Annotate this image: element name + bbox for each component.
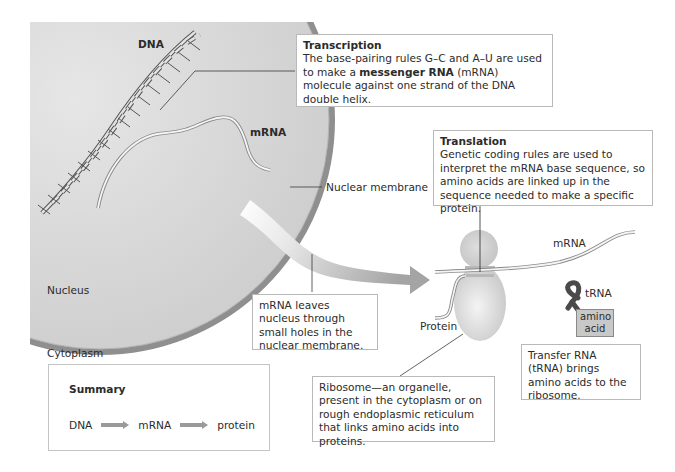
diagram-stage: DNA mRNA Nuclear membrane Nucleus Cytopl… <box>0 0 675 472</box>
summary-step-mrna: mRNA <box>138 419 171 431</box>
summary-flow: DNA mRNA protein <box>69 419 255 431</box>
summary-step-dna: DNA <box>69 419 92 431</box>
summary-box: Summary DNA mRNA protein <box>48 364 270 451</box>
dna-label: DNA <box>138 38 164 51</box>
arrow-right-icon <box>101 421 129 429</box>
ribosome-box: Ribosome—an organelle, present in the cy… <box>312 376 495 442</box>
cytoplasm-label: Cytoplasm <box>47 347 103 360</box>
ribosome-text: Ribosome—an organelle, present in the cy… <box>319 381 482 447</box>
transcription-box: Transcription The base-pairing rules G–C… <box>296 34 553 107</box>
amino-acid-line1: amino <box>580 311 611 322</box>
translation-box: Translation Genetic coding rules are use… <box>433 130 653 206</box>
trna-molecule <box>568 283 579 310</box>
nuclear-membrane-label: Nuclear membrane <box>326 181 428 194</box>
mrna-leaves-box: mRNA leaves nucleus through small holes … <box>252 294 378 350</box>
protein-label: Protein <box>420 320 457 333</box>
mrna-leaves-text: mRNA leaves nucleus through small holes … <box>259 299 363 351</box>
amino-acid-line2: acid <box>585 323 606 334</box>
translation-title: Translation <box>440 135 646 148</box>
translation-text: Genetic coding rules are used to interpr… <box>440 148 645 214</box>
mrna-nucleus-label: mRNA <box>250 126 286 139</box>
transcription-title: Transcription <box>303 39 546 52</box>
trna-box-text: Transfer RNA (tRNA) brings amino acids t… <box>528 349 627 401</box>
trna-box: Transfer RNA (tRNA) brings amino acids t… <box>521 344 641 400</box>
amino-acid-box: amino acid <box>576 309 614 337</box>
summary-step-protein: protein <box>217 419 255 431</box>
summary-title: Summary <box>69 383 126 395</box>
mrna-cytoplasm-label: mRNA <box>553 237 586 250</box>
transcription-text-bold: messenger RNA <box>359 66 453 78</box>
arrow-right-icon <box>180 421 208 429</box>
trna-label: tRNA <box>585 287 612 300</box>
nucleus-label: Nucleus <box>47 284 89 297</box>
